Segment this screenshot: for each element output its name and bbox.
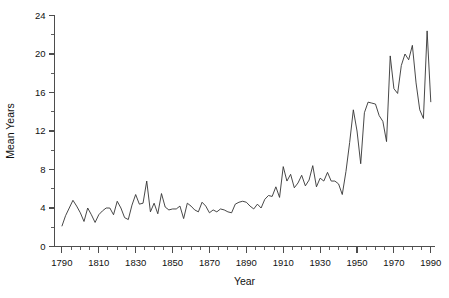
y-axis-title: Mean Years: [4, 103, 16, 158]
x-tick-label: 1790: [51, 257, 72, 268]
y-axis-tick-labels: 04812162024: [35, 10, 46, 252]
x-tick-label: 1930: [310, 257, 331, 268]
x-tick-label: 1850: [162, 257, 183, 268]
y-axis-ticks: [49, 16, 55, 247]
y-tick-label: 12: [35, 125, 46, 136]
x-tick-label: 1830: [125, 257, 146, 268]
x-tick-label: 1890: [236, 257, 257, 268]
x-tick-label: 1970: [383, 257, 404, 268]
x-tick-label: 1810: [88, 257, 109, 268]
y-tick-label: 24: [35, 10, 46, 21]
x-tick-label: 1990: [420, 257, 441, 268]
x-axis-ticks: [62, 247, 431, 254]
y-tick-label: 4: [40, 202, 45, 213]
y-tick-label: 20: [35, 48, 46, 59]
y-tick-label: 0: [40, 241, 45, 252]
y-tick-label: 8: [40, 164, 45, 175]
x-axis-title: Year: [234, 275, 256, 287]
data-series-line: [62, 31, 431, 226]
y-tick-label: 16: [35, 87, 46, 98]
x-tick-label: 1870: [199, 257, 220, 268]
line-chart: 04812162024 1790181018301850187018901910…: [0, 0, 449, 298]
x-axis-tick-labels: 1790181018301850187018901910193019501970…: [51, 257, 441, 268]
x-tick-label: 1910: [273, 257, 294, 268]
chart-container: 04812162024 1790181018301850187018901910…: [0, 0, 449, 298]
x-tick-label: 1950: [346, 257, 367, 268]
